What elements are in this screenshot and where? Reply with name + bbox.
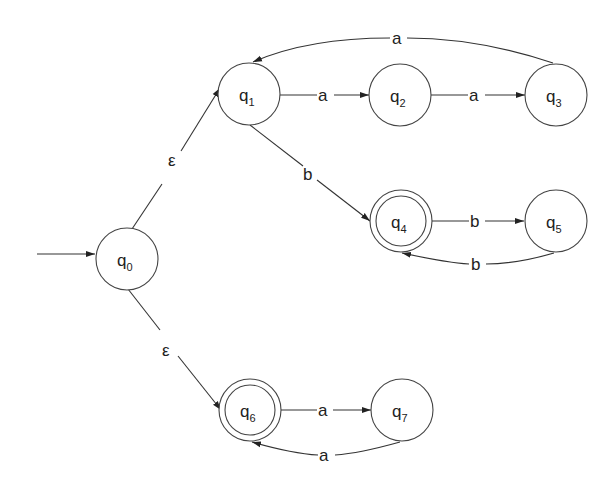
state-q2: q2 [369, 64, 431, 126]
edge-label-a: a [318, 86, 328, 105]
edge-label-a: a [392, 29, 402, 48]
edge-q5-q4: b [402, 253, 554, 274]
state-q4-accepting: q4 [370, 190, 432, 252]
edge-q7-q6: a [252, 442, 400, 465]
edge-q3-q1: a [253, 29, 553, 63]
edge-label-a: a [469, 86, 479, 105]
edge-label-b: b [470, 212, 479, 231]
edge-label-b: b [303, 165, 312, 184]
edge-label-a: a [319, 446, 329, 465]
edge-label-b: b [471, 255, 480, 274]
edge-q0-q6: ε [128, 289, 221, 410]
state-q7: q7 [371, 379, 433, 441]
nfa-diagram: ε ε a a a b b b a [0, 0, 615, 483]
edge-q1-q4: b [250, 125, 370, 221]
edge-label-a: a [318, 401, 328, 420]
edge-q2-q3: a [431, 86, 525, 105]
edge-label-epsilon: ε [168, 151, 176, 170]
state-q5: q5 [525, 190, 587, 252]
edge-q0-q1: ε [132, 88, 220, 229]
state-q1: q1 [218, 63, 280, 125]
edge-q1-q2: a [280, 86, 369, 105]
edge-q4-q5: b [432, 212, 524, 231]
state-q3: q3 [525, 64, 587, 126]
state-q0: q0 [96, 228, 158, 290]
state-q6-accepting: q6 [219, 379, 281, 441]
edge-q6-q7: a [281, 401, 371, 420]
edge-label-epsilon: ε [162, 341, 170, 360]
